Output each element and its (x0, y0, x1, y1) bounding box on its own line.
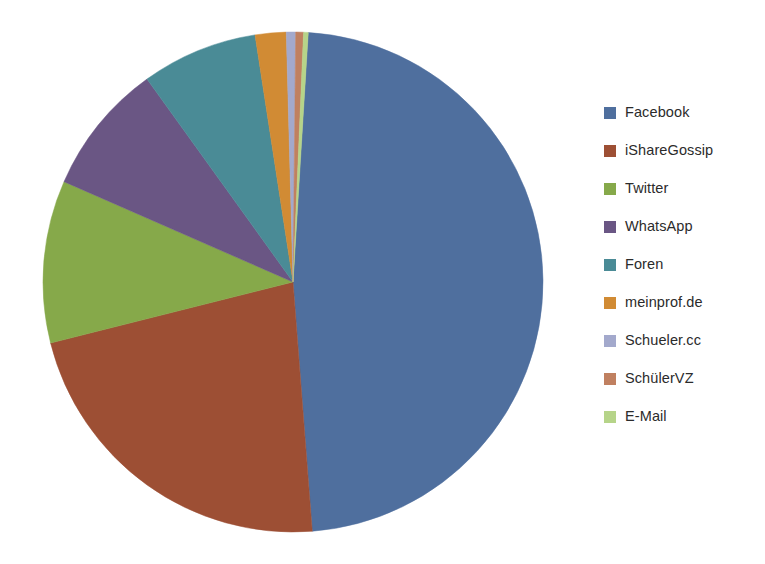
legend-item[interactable]: meinprof.de (604, 294, 764, 311)
legend-item[interactable]: SchülerVZ (604, 370, 764, 387)
legend-item[interactable]: Facebook (604, 104, 764, 121)
legend-item-label: iShareGossip (625, 142, 713, 159)
legend-item-label: Foren (625, 256, 663, 273)
pie-plot-area (0, 0, 600, 564)
legend-swatch-icon (604, 221, 616, 233)
legend-swatch-icon (604, 373, 616, 385)
legend-item[interactable]: Twitter (604, 180, 764, 197)
pie-slice[interactable] (293, 32, 543, 531)
pie-chart-figure: FacebookiShareGossipTwitterWhatsAppForen… (0, 0, 765, 564)
legend-swatch-icon (604, 259, 616, 271)
legend-swatch-icon (604, 411, 616, 423)
legend-swatch-icon (604, 335, 616, 347)
legend-item[interactable]: Schueler.cc (604, 332, 764, 349)
legend-swatch-icon (604, 145, 616, 157)
pie-svg (0, 0, 600, 564)
legend-item-label: WhatsApp (625, 218, 693, 235)
legend-item-label: meinprof.de (625, 294, 703, 311)
pie-slice-group (43, 32, 543, 532)
legend-item-label: SchülerVZ (625, 370, 694, 387)
chart-legend: FacebookiShareGossipTwitterWhatsAppForen… (604, 104, 764, 446)
legend-item[interactable]: iShareGossip (604, 142, 764, 159)
legend-item-label: E-Mail (625, 408, 667, 425)
legend-item-label: Facebook (625, 104, 689, 121)
legend-item[interactable]: Foren (604, 256, 764, 273)
legend-item[interactable]: E-Mail (604, 408, 764, 425)
legend-item[interactable]: WhatsApp (604, 218, 764, 235)
legend-item-label: Twitter (625, 180, 668, 197)
legend-swatch-icon (604, 107, 616, 119)
legend-swatch-icon (604, 183, 616, 195)
legend-swatch-icon (604, 297, 616, 309)
legend-item-label: Schueler.cc (625, 332, 701, 349)
